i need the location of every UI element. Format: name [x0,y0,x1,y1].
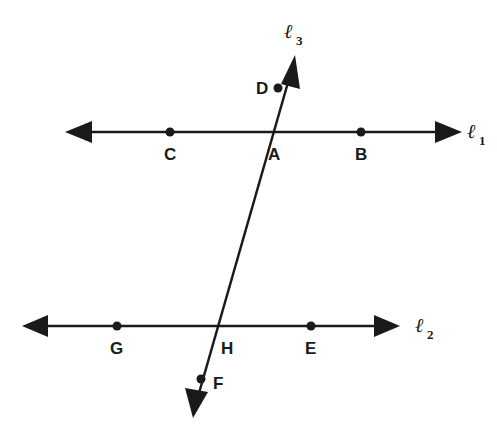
line-l3-bottom-arrow-icon [185,388,208,418]
label-l2-name: ℓ [415,313,424,337]
label-l2: ℓ 2 [415,313,434,342]
label-l3-subscript: 3 [296,33,303,48]
line-l3-segment [197,72,291,400]
point-e [307,322,316,331]
point-d [274,84,283,93]
label-l1-subscript: 1 [479,133,486,148]
label-l1-name: ℓ [467,119,476,143]
label-b: B [355,145,367,164]
line-l2 [22,315,400,337]
label-f: F [213,374,223,393]
line-l3-top-arrow-icon [281,55,300,89]
line-l1-right-arrow-icon [435,121,462,143]
point-b [357,128,366,137]
label-a: A [268,145,280,164]
line-l2-left-arrow-icon [22,315,48,337]
label-l3-name: ℓ [284,19,293,43]
line-l2-right-arrow-icon [374,315,400,337]
label-e: E [305,339,316,358]
point-f [197,375,206,384]
geometry-diagram: C A B D G H E F ℓ 1 ℓ 2 ℓ 3 [0,0,497,427]
point-g [113,322,122,331]
line-l1 [65,121,462,143]
label-l1: ℓ 1 [467,119,486,148]
label-d: D [256,79,268,98]
label-h: H [221,339,233,358]
label-l2-subscript: 2 [427,327,434,342]
label-l3: ℓ 3 [284,19,303,48]
label-c: C [164,145,176,164]
line-l3 [185,55,300,418]
label-g: G [110,339,123,358]
line-l1-left-arrow-icon [65,121,92,143]
point-c [166,128,175,137]
